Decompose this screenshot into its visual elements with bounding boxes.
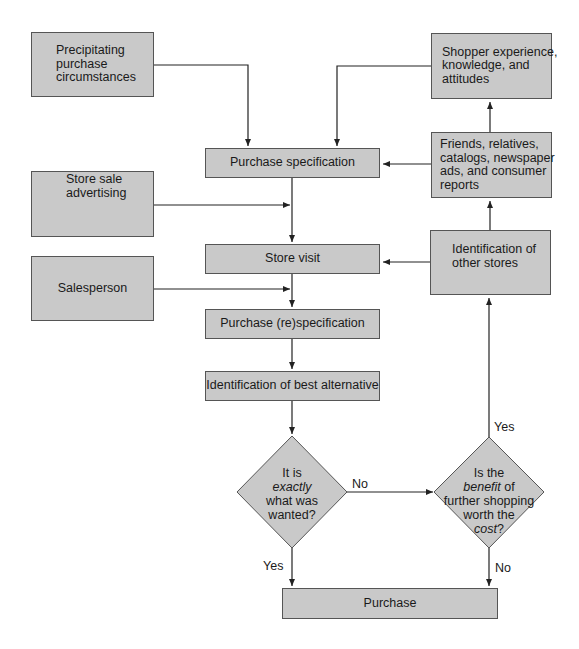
node-text: ?: [497, 522, 504, 536]
node-store-sale-advertising: Store sale advertising: [31, 171, 154, 237]
node-text: Precipitating: [56, 44, 153, 58]
node-text: attitudes: [442, 73, 551, 87]
node-best-alternative: Identification of best alternative: [205, 371, 380, 401]
node-text: Store visit: [265, 252, 320, 266]
edge-label-benefit-yes: Yes: [494, 420, 514, 434]
node-text: what was: [247, 494, 337, 508]
node-text: worth the: [434, 508, 544, 522]
node-text: Purchase: [364, 597, 417, 611]
node-text: purchase: [56, 58, 153, 72]
node-store-visit: Store visit: [205, 244, 380, 274]
node-text: Purchase (re)specification: [220, 317, 365, 331]
node-text: benefit: [463, 480, 501, 494]
node-text: ads, and consumer: [440, 165, 551, 179]
node-text: Friends, relatives,: [440, 138, 551, 152]
node-purchase-specification: Purchase specification: [205, 148, 380, 178]
node-text: cost: [474, 522, 497, 536]
node-text: Shopper experience,: [442, 46, 551, 60]
node-precipitating-circumstances: Precipitating purchase circumstances: [31, 32, 154, 97]
node-text: other stores: [452, 257, 550, 271]
decision-exact-text: It is exactly what was wanted?: [247, 466, 337, 522]
edge-label-exact-yes: Yes: [263, 559, 283, 573]
node-text: Store sale: [66, 173, 126, 187]
node-purchase: Purchase: [282, 588, 498, 619]
node-text: Salesperson: [58, 282, 128, 296]
node-text: Identification of best alternative: [206, 379, 378, 393]
node-text: reports: [440, 179, 551, 193]
node-friends-relatives: Friends, relatives, catalogs, newspaper …: [431, 132, 552, 198]
edge-label-benefit-no: No: [495, 561, 511, 575]
node-other-stores: Identification of other stores: [430, 230, 551, 295]
node-text: catalogs, newspaper: [440, 152, 551, 166]
decision-benefit-text: Is the benefit of further shopping worth…: [434, 466, 544, 536]
node-text: wanted?: [247, 508, 337, 522]
node-salesperson: Salesperson: [31, 256, 154, 321]
node-purchase-respecification: Purchase (re)specification: [205, 309, 380, 339]
node-shopper-experience: Shopper experience, knowledge, and attit…: [431, 33, 552, 99]
node-text: Identification of: [452, 243, 550, 257]
node-text: knowledge, and: [442, 59, 551, 73]
node-text: further shopping: [434, 494, 544, 508]
node-text: Purchase specification: [230, 156, 355, 170]
node-text: It is: [247, 466, 337, 480]
node-text: circumstances: [56, 71, 153, 85]
node-text: exactly: [247, 480, 337, 494]
node-text: advertising: [66, 187, 126, 201]
node-text: Is the: [434, 466, 544, 480]
node-text: of: [501, 480, 515, 494]
edge-label-exact-no: No: [352, 477, 368, 491]
